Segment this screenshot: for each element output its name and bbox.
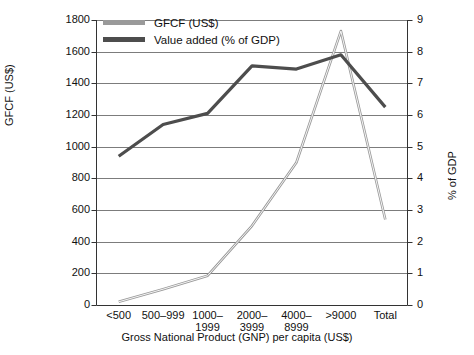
data-series-layer (119, 31, 386, 302)
right-axis-tick-label: 9 (417, 13, 437, 25)
x-axis-tick-label: Total (354, 310, 416, 322)
left-axis-tick-label: 1200 (52, 108, 90, 120)
gridlines (97, 21, 408, 306)
right-axis-tick-label: 2 (417, 235, 437, 247)
right-axis-tick-label: 0 (417, 298, 437, 310)
legend-label: GFCF (US$) (154, 17, 219, 29)
left-axis-tick-label: 600 (52, 203, 90, 215)
left-axis-tick-label: 800 (52, 171, 90, 183)
left-axis-tick-label: 1400 (52, 76, 90, 88)
chart-legend: GFCF (US$)Value added (% of GDP) (103, 14, 280, 48)
data-line-gfcf (119, 31, 386, 302)
right-axis-tick-label: 4 (417, 171, 437, 183)
right-axis-ticks (408, 21, 413, 306)
data-line-value-added (119, 55, 386, 156)
legend-swatch-icon (103, 20, 145, 25)
left-axis-ticks (92, 21, 97, 306)
data-line-gfcf-highlight (119, 31, 386, 302)
right-axis-tick-label: 7 (417, 76, 437, 88)
left-axis-tick-label: 1800 (52, 13, 90, 25)
right-axis-tick-label: 6 (417, 108, 437, 120)
legend-swatch-icon (103, 37, 145, 42)
right-axis-tick-label: 5 (417, 140, 437, 152)
left-axis-tick-label: 0 (52, 298, 90, 310)
right-axis-title: % of GDP (446, 151, 458, 200)
legend-label: Value added (% of GDP) (154, 34, 280, 46)
right-axis-tick-label: 1 (417, 266, 437, 278)
right-axis-tick-label: 3 (417, 203, 437, 215)
x-axis-title: Gross National Product (GNP) per capita … (0, 331, 474, 343)
legend-item[interactable]: GFCF (US$) (103, 14, 280, 31)
left-axis-tick-label: 1000 (52, 140, 90, 152)
left-axis-title: GFCF (US$) (3, 64, 15, 126)
left-axis-tick-label: 400 (52, 235, 90, 247)
legend-item[interactable]: Value added (% of GDP) (103, 31, 280, 48)
chart-container: 020040060080010001200140016001800 012345… (0, 0, 474, 355)
left-axis-tick-label: 1600 (52, 45, 90, 57)
left-axis-tick-label: 200 (52, 266, 90, 278)
right-axis-tick-label: 8 (417, 45, 437, 57)
